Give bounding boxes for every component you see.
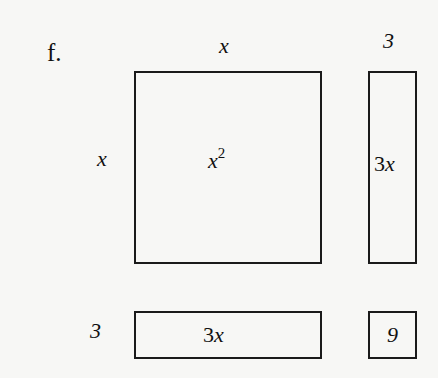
horizontal-3x-tile: 3x bbox=[134, 311, 322, 359]
x-squared-tile: x2 bbox=[134, 71, 322, 264]
top-label-x: x bbox=[219, 35, 229, 57]
problem-label: f. bbox=[47, 40, 62, 65]
x-squared-label: x2 bbox=[208, 150, 225, 172]
top-label-3: 3 bbox=[383, 30, 394, 52]
side-label-3: 3 bbox=[90, 320, 101, 342]
side-label-x: x bbox=[97, 148, 107, 170]
unit-9-tile: 9 bbox=[368, 311, 417, 359]
unit-9-label: 9 bbox=[387, 324, 398, 346]
vertical-3x-tile: 3x bbox=[368, 71, 417, 264]
horizontal-3x-label: 3x bbox=[203, 324, 224, 346]
vertical-3x-label: 3x bbox=[374, 153, 395, 175]
